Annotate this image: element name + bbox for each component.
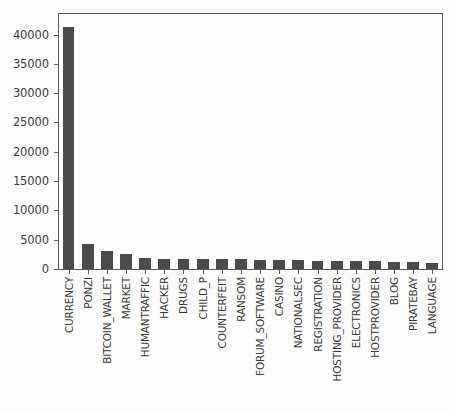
bar-slot xyxy=(231,14,250,269)
x-tick-label: PONZI xyxy=(82,277,93,309)
x-tick-mark xyxy=(260,270,261,274)
bar[interactable] xyxy=(235,259,247,269)
bar[interactable] xyxy=(312,261,324,269)
bar[interactable] xyxy=(254,260,266,269)
x-tick-label: RANSOM xyxy=(235,277,246,322)
bar-slot xyxy=(404,14,423,269)
y-tick-label: 20000 xyxy=(13,145,49,159)
x-tick-mark xyxy=(222,270,223,274)
x-tick-label: REGISTRATION xyxy=(312,277,323,352)
bar-slot xyxy=(365,14,384,269)
x-tick-label: HOSTPROVIDER xyxy=(369,277,380,358)
x-tick-label: CURRENCY xyxy=(63,277,74,333)
x-tick-mark xyxy=(183,270,184,274)
bar-slot xyxy=(251,14,270,269)
x-tick-label: CASINO xyxy=(274,277,285,316)
x-tick-mark xyxy=(241,270,242,274)
bar-slot xyxy=(270,14,289,269)
bar-slot xyxy=(212,14,231,269)
x-axis-ticks: CURRENCYPONZIBITCOIN_WALLETMARKETHUMANTR… xyxy=(59,270,442,410)
bar-slot xyxy=(155,14,174,269)
bar[interactable] xyxy=(426,263,438,269)
bar[interactable] xyxy=(216,259,228,269)
bar[interactable] xyxy=(139,258,151,269)
bar[interactable] xyxy=(178,259,190,269)
bar[interactable] xyxy=(331,261,343,269)
bar-slot xyxy=(78,14,97,269)
x-tick-label: FORUM_SOFTWARE xyxy=(255,277,266,376)
bar[interactable] xyxy=(273,260,285,269)
x-tick-mark xyxy=(432,270,433,274)
bar-slot xyxy=(327,14,346,269)
x-tick-mark xyxy=(337,270,338,274)
x-tick-label: BITCOIN_WALLET xyxy=(101,277,112,364)
bar-slot xyxy=(174,14,193,269)
y-tick-label: 35000 xyxy=(13,57,49,71)
x-tick-mark xyxy=(356,270,357,274)
bar[interactable] xyxy=(120,254,132,269)
x-tick-label: NATIONALSEC xyxy=(293,277,304,348)
bar-slot xyxy=(193,14,212,269)
x-tick-mark xyxy=(375,270,376,274)
x-tick-mark xyxy=(145,270,146,274)
bar-slot xyxy=(289,14,308,269)
bar[interactable] xyxy=(292,260,304,269)
x-tick-mark xyxy=(413,270,414,274)
bar[interactable] xyxy=(82,244,94,269)
x-tick-label: HOSTING_PROVIDER xyxy=(331,277,342,381)
bar-slot xyxy=(423,14,442,269)
x-tick-label: HACKER xyxy=(159,277,170,319)
x-tick-label: DRUGS xyxy=(178,277,189,314)
x-tick-mark xyxy=(69,270,70,274)
bar-chart-figure: 0500010000150002000025000300003500040000… xyxy=(0,0,454,411)
x-tick-mark xyxy=(88,270,89,274)
bar[interactable] xyxy=(158,259,170,269)
x-tick-label: PIRATEBAY xyxy=(408,277,419,331)
bar[interactable] xyxy=(369,261,381,269)
bar-slot xyxy=(136,14,155,269)
x-tick-label: COUNTERFEIT xyxy=(216,277,227,348)
x-tick-label: MARKET xyxy=(121,277,132,319)
x-tick-mark xyxy=(107,270,108,274)
x-tick-mark xyxy=(394,270,395,274)
y-tick-label: 10000 xyxy=(13,203,49,217)
x-tick-label: HUMANTRAFFIC xyxy=(140,277,151,357)
y-tick-label: 40000 xyxy=(13,28,49,42)
bar[interactable] xyxy=(63,27,75,269)
y-tick-label: 15000 xyxy=(13,174,49,188)
y-tick-label: 0 xyxy=(42,262,49,276)
bar[interactable] xyxy=(101,251,113,269)
bar[interactable] xyxy=(197,259,209,269)
bars-group xyxy=(59,14,442,269)
x-tick-label: LANGUAGE xyxy=(427,277,438,334)
x-tick-label: ELECTRONICS xyxy=(350,277,361,348)
x-tick-mark xyxy=(298,270,299,274)
bar-slot xyxy=(385,14,404,269)
x-tick-mark xyxy=(126,270,127,274)
x-tick-mark xyxy=(164,270,165,274)
x-tick-label: BLOG xyxy=(389,277,400,305)
x-tick-mark xyxy=(318,270,319,274)
bar[interactable] xyxy=(388,262,400,269)
y-tick-label: 25000 xyxy=(13,115,49,129)
x-tick-mark xyxy=(279,270,280,274)
bar[interactable] xyxy=(350,261,362,269)
bar[interactable] xyxy=(407,262,419,269)
y-tick-label: 30000 xyxy=(13,86,49,100)
bar-slot xyxy=(59,14,78,269)
bar-slot xyxy=(116,14,135,269)
bar-slot xyxy=(346,14,365,269)
bar-slot xyxy=(308,14,327,269)
x-tick-label: CHILD_P xyxy=(197,277,208,319)
x-tick-mark xyxy=(203,270,204,274)
y-axis-ticks: 0500010000150002000025000300003500040000 xyxy=(0,0,58,411)
y-tick-label: 5000 xyxy=(20,233,49,247)
bar-slot xyxy=(97,14,116,269)
